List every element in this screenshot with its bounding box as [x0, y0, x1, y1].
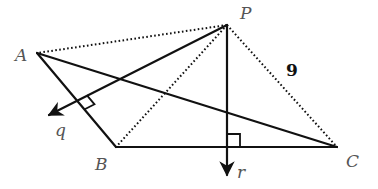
- point-label-c: C: [346, 151, 359, 171]
- point-label-b: B: [94, 154, 108, 174]
- measurement-label-pc: 9: [286, 60, 298, 80]
- vector-label-q: q: [55, 120, 66, 140]
- right-angle-marker-r: [227, 134, 240, 147]
- segment-pb-dotted: [116, 25, 227, 147]
- point-label-a: A: [13, 45, 27, 65]
- point-label-p: P: [239, 3, 252, 23]
- geometry-diagram: P A B C q r 9: [0, 0, 378, 189]
- vector-label-r: r: [237, 162, 246, 182]
- vector-q-arrow: [49, 25, 227, 115]
